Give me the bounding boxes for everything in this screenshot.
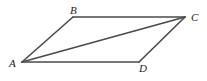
parallelogram-diagram: A B C D	[0, 0, 207, 81]
vertex-label-b: B	[70, 4, 77, 16]
vertex-label-c: C	[191, 11, 199, 23]
vertex-label-a: A	[8, 57, 16, 69]
diagram-canvas: A B C D	[0, 0, 207, 81]
vertex-label-d: D	[138, 62, 147, 74]
